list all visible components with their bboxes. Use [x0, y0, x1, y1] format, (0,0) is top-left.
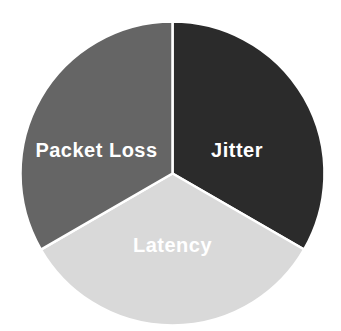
pie-chart: JitterLatencyPacket Loss: [0, 0, 341, 331]
pie-chart-figure: JitterLatencyPacket Loss: [0, 0, 341, 331]
